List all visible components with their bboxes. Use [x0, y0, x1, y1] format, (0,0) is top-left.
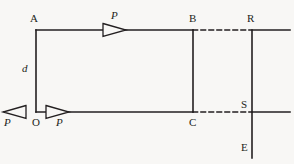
vertex-label-s: S	[241, 99, 247, 110]
vertex-label-b: B	[189, 13, 196, 24]
force-diagram-figure: A B C O R S E d P P P	[0, 0, 294, 164]
force-label-top: P	[111, 10, 118, 21]
top-arrow-icon	[103, 24, 126, 37]
force-label-bottom-right: P	[56, 117, 63, 128]
vertex-label-o: O	[32, 117, 40, 128]
vertex-label-a: A	[30, 13, 38, 24]
diagram-canvas	[0, 0, 294, 164]
vertex-label-r: R	[247, 13, 254, 24]
force-label-bottom-left: P	[4, 117, 11, 128]
distance-label-d: d	[22, 63, 28, 74]
vertex-label-c: C	[189, 117, 196, 128]
vertex-label-e: E	[241, 142, 248, 153]
